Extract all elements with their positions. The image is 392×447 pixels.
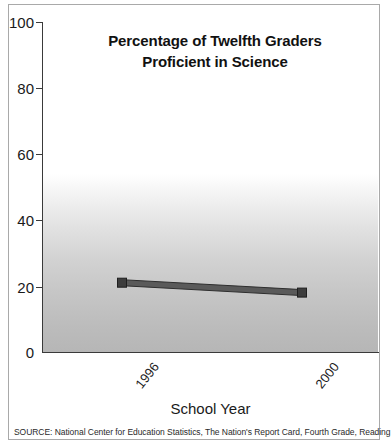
chart-figure: 100 80 60 40 20 0 Percentage of Twelfth … (0, 0, 392, 447)
y-tick-label-0: 0 (0, 345, 34, 360)
y-tick-label-40: 40 (0, 213, 34, 228)
y-tick-label-100: 100 (0, 15, 34, 30)
y-tick-100 (36, 22, 43, 23)
y-tick-60 (36, 154, 43, 155)
y-tick-80 (36, 88, 43, 89)
chart-title-line-2: Proficient in Science (60, 51, 370, 72)
y-axis-line (42, 22, 43, 353)
chart-title-line-1: Percentage of Twelfth Graders (60, 30, 370, 51)
y-tick-label-20: 20 (0, 280, 34, 295)
y-tick-20 (36, 287, 43, 288)
x-axis-title: School Year (42, 400, 379, 417)
y-tick-40 (36, 220, 43, 221)
y-tick-label-60: 60 (0, 147, 34, 162)
source-note: SOURCE: National Center for Education St… (14, 427, 378, 437)
x-axis-line (42, 352, 379, 353)
chart-title: Percentage of Twelfth Graders Proficient… (60, 30, 370, 73)
y-tick-label-80: 80 (0, 81, 34, 96)
